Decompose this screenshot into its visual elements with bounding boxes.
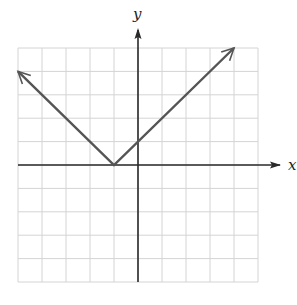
y-axis-label: y (132, 5, 142, 23)
function-graph (18, 48, 234, 165)
axes (18, 28, 281, 282)
function-line (18, 48, 234, 165)
x-axis-label: x (288, 156, 297, 174)
graph-canvas: x y (0, 0, 297, 305)
